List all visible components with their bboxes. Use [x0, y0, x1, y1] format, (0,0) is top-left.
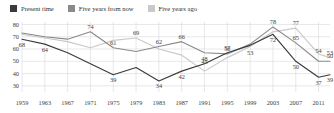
chart-legend: Present time Five years from now Five ye… [10, 2, 330, 14]
x-axis-tick-label: 1991 [198, 99, 211, 107]
x-axis-tick-label: 1967 [61, 99, 74, 107]
legend-item-five-years-from-now[interactable]: Five years from now [68, 5, 134, 12]
legend-swatch-present-time [10, 5, 17, 12]
x-axis-tick-label: 1983 [153, 99, 166, 107]
y-axis-tick-label: 40 [13, 70, 19, 77]
data-point-label: 61 [110, 39, 116, 46]
chart-plot-area: 304050607080 686439344272503739746166567… [0, 18, 334, 98]
legend-swatch-five-years-ago [148, 5, 155, 12]
chart-gridlines [22, 22, 330, 92]
data-point-label: 48 [201, 55, 207, 62]
x-axis-tick-label: 1963 [39, 99, 52, 107]
data-point-label: 53 [327, 49, 333, 56]
x-axis-tick-label: 1971 [84, 99, 97, 107]
x-axis-tick-label: 1959 [16, 99, 29, 107]
data-point-label: 74 [87, 23, 94, 30]
x-axis-tick-label: 2003 [267, 99, 280, 107]
y-axis-tick-label: 50 [13, 57, 19, 64]
data-point-label: 69 [133, 29, 139, 36]
x-axis-tick-label: 1975 [107, 99, 120, 107]
x-axis-tick-label: 1995 [221, 99, 234, 107]
chart-container: Present time Five years from now Five ye… [0, 0, 334, 113]
data-point-label: 65 [293, 34, 299, 41]
data-point-label: 72 [270, 36, 276, 43]
x-axis-tick-label: 1979 [130, 99, 143, 107]
data-point-label: 62 [156, 38, 162, 45]
data-point-label: 68 [19, 41, 25, 48]
x-axis-tick-label: 2011 [312, 99, 324, 107]
data-point-label: 50 [293, 63, 299, 70]
chart-y-axis-labels: 304050607080 [13, 21, 19, 89]
y-axis-tick-label: 30 [13, 82, 19, 89]
data-point-label: 34 [156, 82, 163, 89]
legend-item-five-years-ago[interactable]: Five years ago [148, 5, 197, 12]
data-point-label: 66 [179, 33, 185, 40]
legend-label-five-years-ago: Five years ago [159, 5, 197, 12]
chart-x-axis-labels: 1959196319671971197519791983198719911995… [0, 99, 334, 111]
legend-item-present-time[interactable]: Present time [10, 5, 54, 12]
y-axis-tick-label: 70 [13, 33, 19, 40]
x-axis-tick-label: 1999 [244, 99, 257, 107]
chart-svg: 304050607080 686439344272503739746166567… [0, 18, 334, 98]
chart-series-lines [22, 27, 330, 81]
data-point-label: 42 [179, 73, 185, 80]
data-point-label: 39 [327, 76, 333, 83]
x-axis-tick-label: 1987 [175, 99, 188, 107]
y-axis-tick-label: 80 [13, 21, 19, 28]
x-axis-tick-label: 2007 [289, 99, 302, 107]
data-point-label: 37 [315, 79, 321, 86]
data-point-label: 78 [270, 18, 276, 25]
data-point-label: 77 [293, 19, 299, 26]
legend-label-five-years-from-now: Five years from now [79, 5, 134, 12]
legend-swatch-five-years-from-now [68, 5, 75, 12]
data-point-label: 57 [224, 44, 230, 51]
data-point-label: 53 [247, 49, 253, 56]
data-point-label: 64 [42, 46, 49, 53]
data-point-label: 54 [315, 47, 322, 54]
legend-label-present-time: Present time [21, 5, 54, 12]
data-point-label: 39 [110, 76, 116, 83]
series-line [22, 27, 330, 61]
